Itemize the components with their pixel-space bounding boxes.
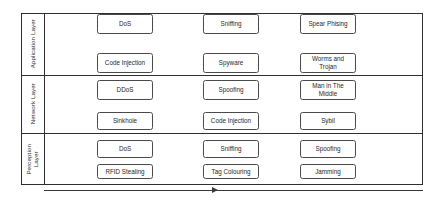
progression-arrow-head-icon xyxy=(212,187,218,193)
attack-box-perception-r1-c2: Sniffing xyxy=(203,140,259,158)
layer-label-network-text: Network Layer xyxy=(29,83,36,124)
attack-box-application-r1-c2: Sniffing xyxy=(203,14,259,34)
attack-box-application-r2-c1: Code Injection xyxy=(97,53,153,73)
attack-box-perception-r2-c2: Tag Colouring xyxy=(203,164,259,179)
attack-box-network-r2-c1: Sinkhole xyxy=(97,112,153,130)
attack-box-application-r1-c3: Spear Phising xyxy=(300,14,356,34)
attack-box-network-r1-c3: Man in The Middle xyxy=(300,80,356,100)
layered-attack-taxonomy-diagram: Application Layer Network Layer Percepti… xyxy=(0,0,443,200)
attack-box-application-r2-c2: Spyware xyxy=(203,53,259,73)
layer-label-application: Application Layer xyxy=(21,13,44,75)
progression-arrow-line xyxy=(44,190,423,191)
layer-divider-application-network xyxy=(21,75,423,76)
label-column-divider xyxy=(44,13,45,185)
attack-box-application-r1-c1: DoS xyxy=(97,14,153,34)
layer-divider-network-perception xyxy=(21,133,423,134)
attack-box-network-r1-c2: Spoofing xyxy=(203,80,259,100)
layer-label-perception: Perception Layer xyxy=(21,133,44,185)
attack-box-perception-r1-c3: Spoofing xyxy=(300,140,356,158)
attack-box-application-r2-c3: Worms and Trojan xyxy=(300,53,356,73)
layer-label-application-text: Application Layer xyxy=(29,19,36,68)
attack-box-network-r2-c3: Sybil xyxy=(300,112,356,130)
attack-box-perception-r2-c3: Jamming xyxy=(300,164,356,179)
attack-box-perception-r2-c1: RFID Stealing xyxy=(97,164,153,179)
attack-box-network-r1-c1: DDoS xyxy=(97,80,153,100)
layer-label-network: Network Layer xyxy=(21,75,44,133)
layer-label-perception-text: Perception Layer xyxy=(25,144,40,175)
attack-box-network-r2-c2: Code Injection xyxy=(203,112,259,130)
attack-box-perception-r1-c1: DoS xyxy=(97,140,153,158)
